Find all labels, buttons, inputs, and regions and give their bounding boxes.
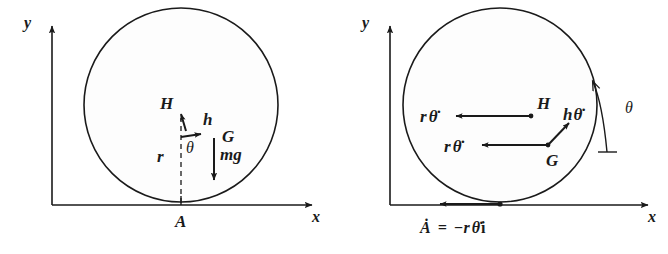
- x-axis-label-left: x: [311, 208, 320, 225]
- physics-diagram-svg: y x A r H h θ G mg: [0, 0, 668, 254]
- x-axis-label-right: x: [647, 208, 656, 225]
- label-r-thetadot-G: rθ̇: [444, 137, 464, 156]
- point-label-G-left: G: [222, 127, 235, 146]
- label-r-thetadot-H: rθ̇: [420, 107, 440, 126]
- label-h-thetadot: hθ̇: [563, 105, 585, 124]
- label-r-thetadot-H-r: r: [420, 107, 427, 126]
- angle-label-theta-right: θ: [625, 99, 633, 116]
- contact-velocity-equation: Ȧ=−rθ̇i: [419, 218, 486, 236]
- label-r-thetadot-G-r: r: [444, 137, 451, 156]
- label-h-thetadot-h: h: [563, 105, 572, 124]
- svg-text:Ȧ=−rθ̇i: Ȧ=−rθ̇i: [419, 218, 486, 236]
- point-dot-H-right: [529, 114, 534, 119]
- angle-label-theta-left: θ: [186, 139, 194, 156]
- point-label-G-right: G: [546, 151, 559, 170]
- contact-velocity-i-term: i: [481, 219, 486, 236]
- y-axis-label-right: y: [360, 14, 370, 32]
- contact-velocity-A-term: Ȧ: [419, 218, 431, 236]
- left-panel-group: y x A r H h θ G mg: [22, 8, 320, 231]
- y-axis-label-left: y: [22, 14, 32, 32]
- height-label-h: h: [203, 110, 212, 129]
- point-label-H-right: H: [536, 94, 551, 113]
- contact-point-label-A: A: [174, 212, 186, 231]
- figure-canvas: y x A r H h θ G mg: [0, 0, 668, 254]
- contact-velocity-equals: =: [438, 219, 447, 236]
- point-label-H-left: H: [159, 94, 174, 113]
- right-panel-group: y x Ȧ=−rθ̇i H rθ̇ G: [360, 8, 656, 236]
- weight-label-mg: mg: [220, 145, 242, 164]
- contact-velocity-rhs-term: −r: [454, 219, 471, 236]
- contact-point-dot-right: [497, 201, 502, 206]
- radius-label-r: r: [157, 147, 164, 166]
